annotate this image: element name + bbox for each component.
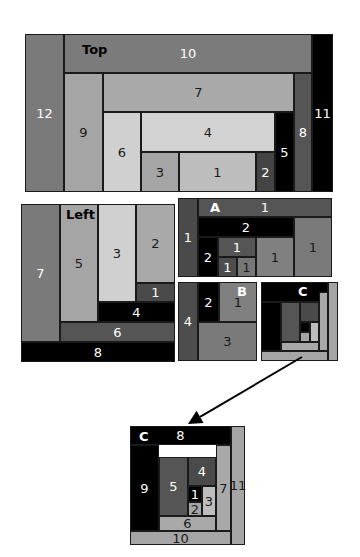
zoom-arrow-icon (0, 0, 360, 557)
